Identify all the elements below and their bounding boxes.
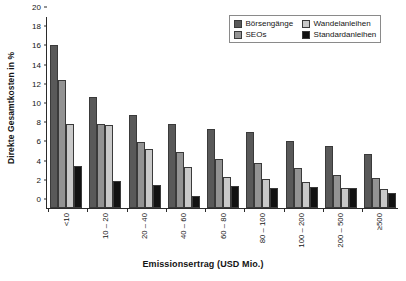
bar: [74, 166, 82, 208]
bar: [246, 132, 254, 208]
x-axis-tick-label-slot: 100 – 200: [284, 211, 318, 257]
x-axis-tick-label-slot: 200 – 500: [323, 211, 357, 257]
bar: [215, 159, 223, 208]
y-axis-title-label: Direkte Gesamtkosten in %: [6, 51, 16, 163]
x-axis-tick-label: <10: [62, 213, 71, 226]
y-axis-tick: 2: [17, 175, 47, 184]
y-axis-tick: 0: [17, 195, 47, 204]
y-axis-tick-label: 16: [32, 41, 44, 50]
bar: [168, 124, 176, 208]
bar: [58, 80, 66, 208]
legend-item[interactable]: Börsengänge: [234, 19, 293, 28]
bar: [341, 188, 349, 208]
legend-swatch-icon: [234, 31, 242, 39]
y-axis-tick: 10: [17, 99, 47, 108]
legend-item[interactable]: SEOs: [234, 30, 293, 39]
x-axis-tick-label-slot: <10: [49, 211, 83, 257]
y-axis-tick-label: 20: [32, 3, 44, 12]
y-axis-tick: 8: [17, 118, 47, 127]
x-axis-tick-label: 80 – 100: [257, 213, 266, 243]
bar: [254, 163, 262, 208]
y-axis-tick-label: 10: [32, 99, 44, 108]
legend-item-label: Standardanleihen: [314, 30, 377, 39]
chart-legend: BörsengängeWandelanleihenSEOsStandardanl…: [229, 15, 381, 43]
bar: [302, 182, 310, 208]
y-axis-tick-label: 2: [37, 175, 44, 184]
bar-group: [364, 17, 396, 208]
plot-area: 02468101214161820: [46, 17, 398, 209]
x-axis-tick-label-slot: 40 – 60: [166, 211, 200, 257]
bar: [262, 179, 270, 208]
legend-swatch-icon: [302, 31, 310, 39]
x-axis-tick-label-slot: 10 – 20: [88, 211, 122, 257]
bar: [310, 187, 318, 208]
bar-group: [129, 17, 161, 208]
y-axis-tick: 18: [17, 22, 47, 31]
bar-group: [286, 17, 318, 208]
x-axis-tick-label: 10 – 20: [101, 213, 110, 239]
bar: [153, 185, 161, 208]
bar: [372, 178, 380, 208]
bar: [294, 168, 302, 208]
bar: [129, 115, 137, 208]
x-axis-tick-label: ≥500: [375, 213, 384, 230]
legend-item-label: Wandelanleihen: [314, 19, 371, 28]
legend-swatch-icon: [302, 20, 310, 28]
x-axis-tick-label-slot: 60 – 80: [206, 211, 240, 257]
bar: [364, 154, 372, 208]
bar: [66, 124, 74, 208]
legend-item-label: SEOs: [246, 30, 267, 39]
legend-item[interactable]: Standardanleihen: [302, 30, 376, 39]
bar: [207, 129, 215, 208]
bar: [286, 141, 294, 208]
bar: [223, 177, 231, 208]
y-axis-tick-label: 12: [32, 79, 44, 88]
x-axis-tick-label: 60 – 80: [218, 213, 227, 239]
legend-item[interactable]: Wandelanleihen: [302, 19, 376, 28]
bar: [325, 146, 333, 208]
y-axis-tick: 16: [17, 41, 47, 50]
legend-swatch-icon: [234, 20, 242, 28]
bar-group: [246, 17, 278, 208]
bar: [184, 167, 192, 208]
y-axis-tick: 14: [17, 60, 47, 69]
x-axis-tick-label: 20 – 40: [140, 213, 149, 239]
bar-group: [325, 17, 357, 208]
bar: [50, 45, 58, 208]
y-axis-tick: 20: [17, 3, 47, 12]
x-axis-tick-label-slot: 20 – 40: [127, 211, 161, 257]
y-axis-tick-label: 14: [32, 60, 44, 69]
bar: [137, 142, 145, 208]
bar: [97, 124, 105, 208]
bar: [192, 196, 200, 208]
y-axis-tick-label: 18: [32, 22, 44, 31]
bar: [113, 181, 121, 208]
bar: [333, 175, 341, 208]
bar: [388, 193, 396, 208]
legend-item-label: Börsengänge: [246, 19, 294, 28]
y-axis-tick-label: 4: [37, 156, 44, 165]
bar: [105, 125, 113, 208]
y-axis-tick: 12: [17, 79, 47, 88]
bar-group: [168, 17, 200, 208]
bar: [89, 97, 97, 208]
y-axis-tick: 6: [17, 137, 47, 146]
bars-layer: [47, 17, 398, 208]
bar: [380, 189, 388, 208]
x-axis-tick-label-slot: ≥500: [362, 211, 396, 257]
y-axis-tick-mark: [44, 6, 47, 7]
bar-group: [89, 17, 121, 208]
bar: [270, 188, 278, 208]
y-axis-tick: 4: [17, 156, 47, 165]
bar-chart-figure: Direkte Gesamtkosten in % 02468101214161…: [0, 0, 406, 281]
bar-group: [207, 17, 239, 208]
x-axis-tick-label: 100 – 200: [296, 213, 305, 248]
x-axis-tick-label-slot: 80 – 100: [245, 211, 279, 257]
bar-group: [50, 17, 82, 208]
bar: [231, 186, 239, 208]
y-axis-tick-label: 8: [37, 118, 44, 127]
bar: [176, 152, 184, 208]
x-axis-tick-labels: <1010 – 2020 – 4040 – 6060 – 8080 – 1001…: [46, 211, 398, 257]
bar: [349, 188, 357, 208]
x-axis-tick-label: 200 – 500: [335, 213, 344, 248]
